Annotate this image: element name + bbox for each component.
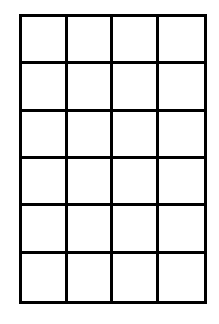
grid-cell xyxy=(113,206,159,253)
grid-cell xyxy=(22,254,68,301)
grid-cell xyxy=(68,159,114,206)
grid-cell xyxy=(159,206,205,253)
grid-cell xyxy=(159,159,205,206)
grid-cell xyxy=(22,159,68,206)
grid-cell xyxy=(68,112,114,159)
grid-cell xyxy=(68,17,114,64)
grid-cell xyxy=(22,112,68,159)
grid-cell xyxy=(22,64,68,111)
grid-cell xyxy=(159,64,205,111)
grid-cell xyxy=(68,254,114,301)
grid-cell xyxy=(113,112,159,159)
grid-cell xyxy=(22,206,68,253)
grid-cell xyxy=(68,206,114,253)
grid-diagram xyxy=(19,14,207,304)
grid-cell xyxy=(22,17,68,64)
grid-cell xyxy=(113,64,159,111)
grid-cell xyxy=(113,254,159,301)
grid-cell xyxy=(159,254,205,301)
grid-cell xyxy=(68,64,114,111)
grid-cell xyxy=(113,159,159,206)
grid-cell xyxy=(159,17,205,64)
grid-cell xyxy=(113,17,159,64)
grid-cell xyxy=(159,112,205,159)
